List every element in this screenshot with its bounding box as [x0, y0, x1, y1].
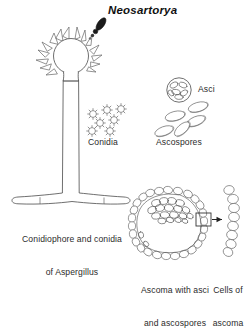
vesicle-icon [54, 39, 89, 74]
label-asci: Asci [198, 84, 215, 95]
label-cells-of-ascoma: Cells of ascoma [206, 263, 250, 332]
foot-cell-icon [12, 193, 130, 204]
label-cells-line1: Cells of [206, 285, 250, 296]
label-conidiophore-line1: Conidiophore and conidia [12, 234, 132, 245]
internal-asci-icon [147, 197, 195, 224]
label-conidiophore-line2: of Aspergillus [12, 267, 132, 278]
ascospores-cluster-icon [153, 100, 209, 139]
ascus-icon [167, 78, 191, 102]
callout-arrow-head-icon [217, 217, 223, 222]
vesicle-neck-icon [63, 72, 78, 82]
label-conidiophore-of: of [46, 267, 55, 277]
ascoma-cavity-icon [137, 194, 201, 253]
label-conidiophore: Conidiophore and conidia of Aspergillus [12, 212, 132, 300]
label-cells-line2: ascoma [206, 318, 250, 329]
label-genus-aspergillus: Aspergillus [55, 267, 98, 277]
label-ascospores: Ascospores [156, 137, 202, 148]
conidial-chain-icon [89, 16, 108, 40]
cells-of-ascoma-chain-icon [222, 185, 240, 259]
conidia-cluster-icon [87, 104, 127, 137]
label-conidia: Conidia [88, 137, 118, 148]
stalk-icon [62, 81, 79, 193]
